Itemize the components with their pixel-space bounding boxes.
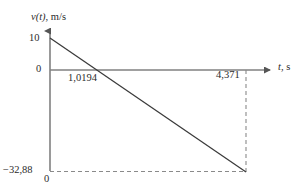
y-tick-label-0: 0: [36, 64, 41, 75]
chart-canvas: [0, 0, 301, 193]
x-tick-label-zero-crossing: 1,0194: [68, 73, 97, 84]
y-axis-title: v(t), m/s: [31, 12, 66, 23]
y-tick-label-10: 10: [29, 33, 40, 44]
velocity-line: [50, 38, 246, 172]
x-tick-label-endpoint: 4,371: [216, 70, 240, 81]
origin-label: 0: [44, 174, 49, 185]
x-axis-title: t, s: [278, 62, 290, 73]
y-tick-label-minimum: −32,88: [3, 165, 33, 176]
x-axis-unit: , s: [281, 61, 290, 72]
y-axis-unit: , m/s: [46, 11, 66, 22]
velocity-time-chart: v(t), m/s t, s 10 0 1,0194 4,371 −32,88 …: [0, 0, 301, 193]
y-axis-argument: (t): [36, 11, 46, 22]
